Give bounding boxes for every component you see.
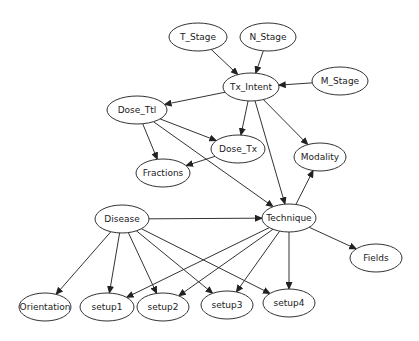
edge-arrow xyxy=(279,83,313,85)
edge-arrow xyxy=(241,101,248,135)
edge-arrow xyxy=(256,51,264,73)
node-label: Fields xyxy=(363,253,389,263)
edge-technique-to-fields xyxy=(309,227,356,249)
node-setup1[interactable]: setup1 xyxy=(80,293,134,321)
node-label: Tx_Intent xyxy=(229,82,272,92)
nodes-layer: T_StageN_StageTx_IntentM_StageDose_TtlDo… xyxy=(19,23,402,321)
edge-dose_ttl-to-dose_tx xyxy=(160,119,216,141)
edge-disease-to-setup4 xyxy=(141,229,270,294)
edge-disease-to-orientation xyxy=(56,232,111,295)
node-fractions[interactable]: Fractions xyxy=(136,159,190,187)
node-label: Fractions xyxy=(143,168,184,178)
edge-arrow xyxy=(127,228,270,298)
edge-arrow xyxy=(263,100,307,145)
edge-m_stage-to-tx_intent xyxy=(279,83,313,85)
graph-canvas: T_StageN_StageTx_IntentM_StageDose_TtlDo… xyxy=(0,0,419,341)
node-label: M_Stage xyxy=(321,76,360,86)
node-label: Dose_Ttl xyxy=(118,105,157,115)
node-orientation[interactable]: Orientation xyxy=(19,293,71,321)
node-label: N_Stage xyxy=(249,32,287,42)
edge-disease-to-setup1 xyxy=(109,233,119,293)
node-label: Technique xyxy=(265,213,312,223)
edge-arrow xyxy=(179,229,273,296)
node-label: T_Stage xyxy=(179,32,216,42)
edge-disease-to-setup3 xyxy=(136,231,212,293)
edge-tx_intent-to-dose_tx xyxy=(241,101,248,135)
node-setup2[interactable]: setup2 xyxy=(137,293,189,321)
edge-arrow xyxy=(186,156,215,165)
node-label: Disease xyxy=(104,214,140,224)
node-setup3[interactable]: setup3 xyxy=(201,291,253,319)
node-disease[interactable]: Disease xyxy=(95,205,149,233)
node-n-stage[interactable]: N_Stage xyxy=(240,23,296,51)
node-label: Dose_Tx xyxy=(219,144,258,154)
edge-t_stage-to-tx_intent xyxy=(211,49,238,74)
node-label: setup2 xyxy=(148,302,179,312)
node-fields[interactable]: Fields xyxy=(350,244,402,272)
edges-layer xyxy=(56,49,356,297)
edge-dose_tx-to-fractions xyxy=(186,156,215,165)
node-label: setup3 xyxy=(212,300,243,310)
node-technique[interactable]: Technique xyxy=(262,204,316,232)
edge-disease-to-technique xyxy=(149,218,262,219)
node-label: Modality xyxy=(301,152,340,162)
edge-n_stage-to-tx_intent xyxy=(256,51,264,73)
edge-arrow xyxy=(149,218,262,219)
edge-arrow xyxy=(211,49,238,74)
node-dose-tx[interactable]: Dose_Tx xyxy=(211,135,265,163)
edge-arrow xyxy=(141,229,270,294)
edge-tx_intent-to-modality xyxy=(263,100,307,145)
edge-arrow xyxy=(309,227,356,249)
edge-arrow xyxy=(109,233,119,293)
edge-technique-to-modality xyxy=(296,171,313,205)
edge-arrow xyxy=(136,231,212,293)
node-modality[interactable]: Modality xyxy=(294,143,346,171)
edge-arrow xyxy=(296,171,313,205)
node-m-stage[interactable]: M_Stage xyxy=(312,67,368,95)
node-dose-ttl[interactable]: Dose_Ttl xyxy=(107,96,167,124)
edge-technique-to-setup2 xyxy=(179,229,273,296)
node-t-stage[interactable]: T_Stage xyxy=(169,23,227,51)
node-label: setup4 xyxy=(274,298,305,308)
node-label: setup1 xyxy=(92,302,123,312)
edge-arrow xyxy=(165,92,225,104)
edge-dose_ttl-to-fractions xyxy=(143,124,158,160)
edge-tx_intent-to-dose_ttl xyxy=(165,92,225,104)
edge-technique-to-setup1 xyxy=(127,228,270,298)
node-label: Orientation xyxy=(20,302,71,312)
edge-arrow xyxy=(56,232,111,295)
edge-arrow xyxy=(160,119,216,141)
edge-arrow xyxy=(143,124,158,160)
node-tx-intent[interactable]: Tx_Intent xyxy=(223,73,279,101)
node-setup4[interactable]: setup4 xyxy=(263,289,315,317)
